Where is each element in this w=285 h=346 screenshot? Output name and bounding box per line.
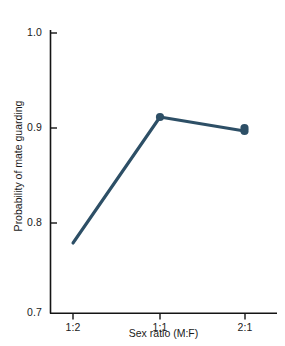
line-chart-plot xyxy=(0,0,285,346)
y-axis-title: Probability of mate guarding xyxy=(12,66,24,266)
y-tick-label-1-0: 1.0 xyxy=(14,26,42,38)
y-tick-label-0-7: 0.7 xyxy=(14,306,42,318)
chart-figure: 1.0 0.9 0.8 0.7 1:2 1:1 2:1 Probability … xyxy=(0,0,285,346)
x-axis-title: Sex ratio (M:F) xyxy=(50,327,277,339)
data-point-2-1 xyxy=(240,124,248,132)
plot-background xyxy=(0,0,285,346)
data-point-1-2 xyxy=(156,113,164,121)
